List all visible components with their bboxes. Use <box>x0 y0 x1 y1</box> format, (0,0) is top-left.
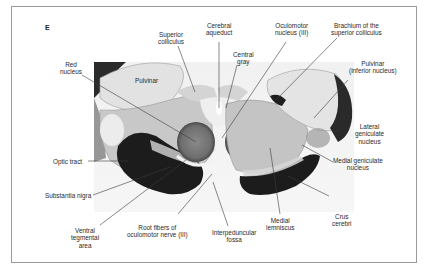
label-central-gray: Central gray <box>233 51 254 66</box>
label-lateral-geniculate: Lateral geniculate nucleus <box>355 123 384 145</box>
label-substantia-nigra: Substantia nigra <box>45 192 91 199</box>
panel-letter: E <box>45 24 50 31</box>
label-interpeduncular-fossa: Interpeduncular fossa <box>212 229 256 244</box>
right-geniculate-region <box>306 128 330 148</box>
left-lgn-region <box>100 114 124 146</box>
label-pulvinar-left: Pulvinar <box>135 77 158 84</box>
label-medial-lemniscus: Medial lemniscus <box>266 217 294 232</box>
label-red-nucleus: Red nucleus <box>60 61 82 76</box>
label-medial-geniculate: Medial geniculate nucleus <box>333 157 383 172</box>
label-ventral-tegmental-area: Ventral tegmental area <box>71 227 99 249</box>
label-superior-colliculus: Superior colliculus <box>158 31 184 46</box>
label-crus-cerebri: Crus cerebri <box>332 213 352 228</box>
label-oculomotor-nucleus: Oculomotor nucleus (III) <box>275 22 308 37</box>
label-brachium-superior-colliculus: Brachium of the superior colliculus <box>331 22 382 37</box>
label-root-fibers-oculomotor: Root fibers of oculomotor nerve (III) <box>127 224 188 239</box>
label-cerebral-aqueduct: Cerebral aqueduct <box>206 22 232 37</box>
label-optic-tract: Optic tract <box>53 158 82 165</box>
label-pulvinar-inferior: Pulvinar (inferior nucleus) <box>349 60 397 75</box>
